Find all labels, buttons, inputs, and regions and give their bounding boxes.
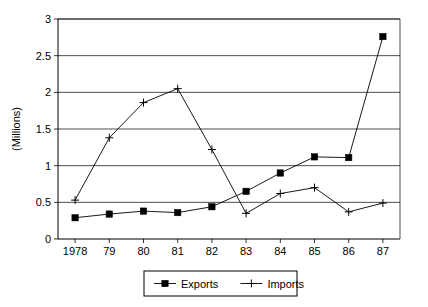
y-axis-tick-label: 2.5 <box>36 50 51 62</box>
x-axis-tick-label: 80 <box>137 245 149 257</box>
y-axis-tick-label: 0.5 <box>36 196 51 208</box>
x-axis-tick-label: 83 <box>240 245 252 257</box>
gridlines: 00.511.522.53 <box>36 13 400 245</box>
series-imports <box>71 85 387 218</box>
legend-label: Exports <box>181 278 219 290</box>
data-point-marker <box>209 204 215 210</box>
y-axis-tick-label: 2 <box>45 86 51 98</box>
x-axis-tick-label: 82 <box>206 245 218 257</box>
y-axis-tick-label: 0 <box>45 233 51 245</box>
x-axis-tick-label: 84 <box>274 245 286 257</box>
y-axis-tick-label: 1 <box>45 160 51 172</box>
series-line <box>75 37 383 218</box>
legend-label: Imports <box>267 278 304 290</box>
y-axis-title: (Millions) <box>10 107 22 151</box>
data-point-marker <box>243 188 249 194</box>
data-point-marker <box>311 154 317 160</box>
data-point-marker <box>175 209 181 215</box>
data-point-marker <box>106 211 112 217</box>
x-axis-tick-label: 87 <box>377 245 389 257</box>
legend: ExportsImports <box>144 271 305 296</box>
data-point-marker <box>277 170 283 176</box>
line-chart: 00.511.522.531978798081828384858687(Mill… <box>0 0 428 307</box>
x-axis-tick-label: 79 <box>103 245 115 257</box>
series-line <box>75 89 383 214</box>
data-point-marker <box>140 208 146 214</box>
x-axis-tick-label: 1978 <box>63 245 87 257</box>
chart-container: 00.511.522.531978798081828384858687(Mill… <box>0 0 428 307</box>
x-axis: 1978798081828384858687 <box>63 239 389 257</box>
x-axis-tick-label: 81 <box>172 245 184 257</box>
y-axis-tick-label: 3 <box>45 13 51 25</box>
x-axis-tick-label: 85 <box>308 245 320 257</box>
data-point-marker <box>162 280 168 286</box>
y-axis-tick-label: 1.5 <box>36 123 51 135</box>
data-point-marker <box>72 215 78 221</box>
x-axis-tick-label: 86 <box>343 245 355 257</box>
data-point-marker <box>346 154 352 160</box>
data-point-marker <box>380 33 386 39</box>
